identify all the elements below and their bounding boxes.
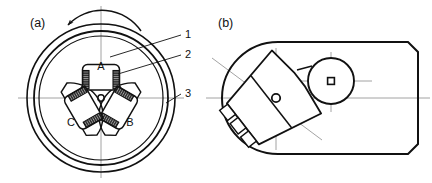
leader-label-2: 2 [185, 48, 191, 60]
panel-caption-a: (a) [30, 16, 45, 30]
pole-label-a: A [97, 60, 105, 72]
technical-diagram-svg: A B C 1 2 3 (a) [0, 0, 432, 183]
canvas-background [0, 0, 432, 183]
pole-label-c: C [67, 116, 75, 128]
wheel-hub-square [328, 78, 335, 85]
leader-label-1: 1 [185, 28, 191, 40]
figure-root: A B C 1 2 3 (a) [0, 0, 432, 183]
pole-label-b: B [126, 116, 133, 128]
panel-caption-b: (b) [218, 16, 233, 30]
leader-label-3: 3 [185, 87, 191, 99]
pivot-joint [272, 94, 280, 102]
